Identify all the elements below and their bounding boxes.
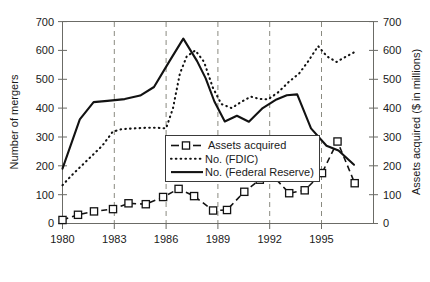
right-tick-label-100: 100 [383,189,401,201]
data-point-marker [142,201,149,208]
legend-label-federal-reserve: No. (Federal Reserve) [205,166,314,178]
left-axis-title: Number of mergers [8,74,20,169]
data-point-marker [210,207,217,214]
right-tick-label-700: 700 [383,16,401,28]
data-point-marker [74,211,81,218]
left-tick-label-400: 400 [36,102,54,114]
data-point-marker [59,216,66,223]
data-point-marker [241,188,248,195]
data-point-marker [109,206,116,213]
data-point-marker [90,208,97,215]
right-tick-label-0: 0 [383,217,389,229]
x-tick-label-1989: 1989 [206,233,230,245]
chart-figure: 0 100 200 300 400 500 600 700 0 100 200 … [0,0,430,282]
legend-label-fdic: No. (FDIC) [205,153,258,165]
x-tick-label-1980: 1980 [50,233,74,245]
right-tick-label-400: 400 [383,102,401,114]
data-point-marker [191,193,198,200]
chart-legend: Assets acquired No. (FDIC) No. (Federal … [166,136,320,182]
x-tick-label-1992: 1992 [257,233,281,245]
data-point-marker [286,190,293,197]
data-point-marker [351,180,358,187]
left-tick-label-200: 200 [36,160,54,172]
left-tick-label-100: 100 [36,189,54,201]
data-point-marker [223,206,230,213]
left-tick-label-600: 600 [36,44,54,56]
data-point-marker [160,193,167,200]
right-tick-label-500: 500 [383,73,401,85]
data-point-marker [125,200,132,207]
legend-label-assets-acquired: Assets acquired [208,139,286,151]
data-point-marker [301,187,308,194]
right-tick-label-600: 600 [383,44,401,56]
left-tick-label-500: 500 [36,73,54,85]
data-point-marker [175,185,182,192]
chart-canvas: 0 100 200 300 400 500 600 700 0 100 200 … [0,0,430,282]
x-tick-label-1995: 1995 [309,233,333,245]
right-tick-label-200: 200 [383,160,401,172]
left-tick-label-700: 700 [36,16,54,28]
left-tick-label-300: 300 [36,131,54,143]
data-point-marker [334,138,341,145]
x-tick-label-1986: 1986 [154,233,178,245]
x-tick-label-1983: 1983 [102,233,126,245]
left-tick-label-0: 0 [48,217,54,229]
right-tick-label-300: 300 [383,131,401,143]
legend-square-marker-icon [182,142,189,149]
right-axis-title: Assets acquired ($ in millions) [410,49,422,195]
